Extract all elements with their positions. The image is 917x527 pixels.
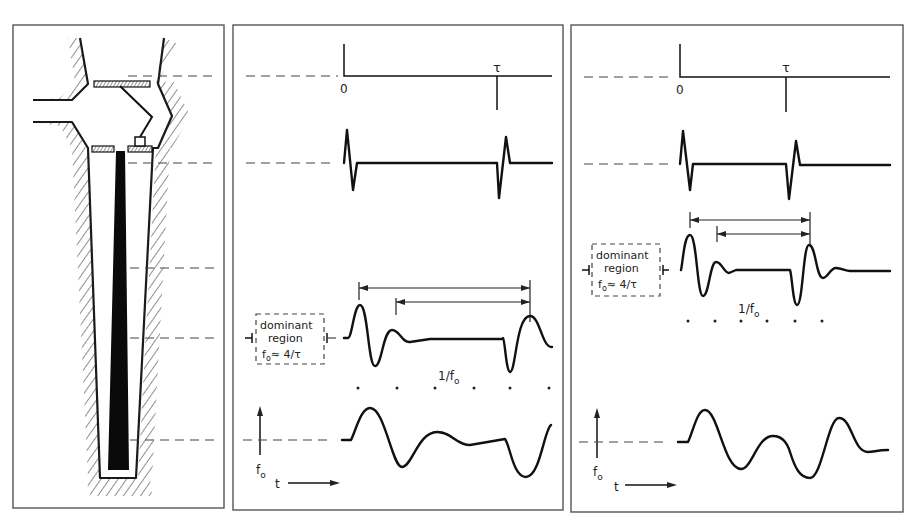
box-label-dominant: dominant — [260, 319, 313, 332]
box-label-formula: fo≈ 4/τ — [598, 278, 637, 293]
origin-label: 0 — [340, 82, 348, 96]
period-dots — [687, 320, 824, 323]
reed-plate-bottom-right — [128, 146, 152, 152]
dimension-arrows — [690, 212, 810, 246]
tau-label: τ — [782, 60, 790, 75]
tau-label: τ — [493, 60, 501, 75]
impulse-trace — [344, 44, 552, 76]
y-axis-label: fo — [256, 463, 266, 480]
middle-panel: 0 τ dominant region fo≈ 4/τ 1/fo — [233, 25, 563, 510]
left-panel — [13, 25, 224, 508]
box-label-dominant: dominant — [596, 249, 649, 262]
reed-plate-bottom-left — [92, 146, 114, 152]
ringing-trace — [344, 305, 552, 372]
box-label-region: region — [268, 332, 303, 345]
doublet-trace — [680, 131, 890, 199]
y-axis-label: fo — [593, 465, 603, 482]
x-axis-label: t — [275, 477, 280, 491]
period-label: 1/fo — [438, 369, 460, 386]
resonance-diagram: 0 τ dominant region fo≈ 4/τ 1/fo — [0, 0, 917, 527]
frequency-trace — [342, 408, 551, 477]
period-label: 1/fo — [738, 302, 760, 319]
dimension-arrows — [359, 280, 530, 322]
black-inner-rod — [108, 151, 129, 470]
x-axis-label: t — [614, 480, 619, 494]
doublet-trace — [344, 130, 552, 198]
origin-label: 0 — [676, 83, 684, 97]
tongue-block — [135, 137, 145, 146]
ringing-trace — [681, 235, 890, 305]
middle-panel-border — [233, 25, 563, 510]
hinged-reed — [120, 86, 152, 137]
reed-plate-top — [94, 81, 150, 87]
period-dots — [357, 387, 551, 390]
right-panel: 0 τ dominant region fo≈ 4/τ 1/fo — [571, 25, 903, 512]
frequency-trace — [678, 410, 888, 478]
box-label-region: region — [604, 262, 639, 275]
box-label-formula: fo≈ 4/τ — [262, 348, 301, 363]
